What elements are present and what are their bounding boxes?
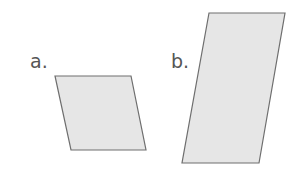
shapes-canvas <box>0 0 305 170</box>
parallelogram-a <box>55 76 146 150</box>
parallelogram-b <box>182 13 285 163</box>
